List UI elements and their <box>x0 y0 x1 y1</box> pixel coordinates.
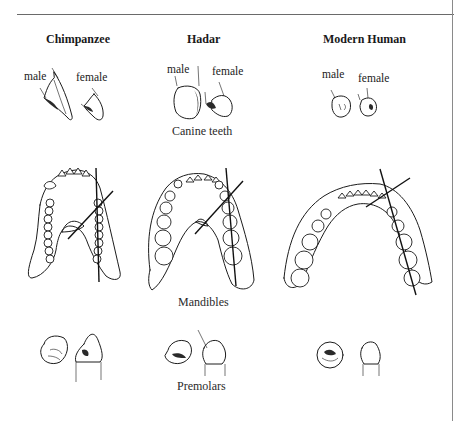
chimp-male-canine <box>40 68 72 120</box>
hadar-mandible <box>149 168 254 290</box>
human-premolars <box>317 342 380 376</box>
human-male-canine <box>331 90 351 117</box>
figure-artwork <box>0 0 454 421</box>
hadar-male-canine <box>174 66 201 119</box>
hadar-female-canine <box>205 82 232 117</box>
human-female-canine <box>358 88 377 116</box>
hadar-premolars <box>165 330 226 376</box>
human-mandible <box>284 169 432 295</box>
chimp-mandible <box>28 168 120 282</box>
chimp-female-canine <box>81 88 103 120</box>
chimp-premolars <box>41 334 102 382</box>
